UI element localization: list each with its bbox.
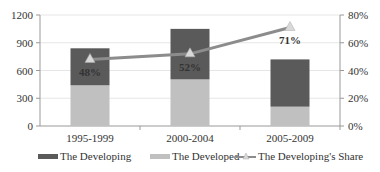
- y2-tick-label: 0%: [348, 120, 363, 132]
- legend-label: The Developing's Share: [258, 150, 363, 162]
- y-tick-label: 0: [28, 120, 34, 132]
- bar-segment: [171, 79, 210, 126]
- legend-label: The Developing: [60, 150, 132, 162]
- y-tick-label: 300: [17, 92, 34, 104]
- y2-tick-label: 40%: [348, 65, 368, 77]
- chart-svg: 030060090012000%20%40%60%80%1995-1999200…: [0, 0, 380, 172]
- stacked-bar-line-chart: 030060090012000%20%40%60%80%1995-1999200…: [0, 0, 380, 172]
- bar-segment: [271, 107, 310, 126]
- legend-label: The Developed: [172, 150, 240, 162]
- data-label: 52%: [179, 61, 201, 73]
- legend-swatch-icon: [38, 154, 58, 159]
- y-tick-label: 1200: [11, 9, 34, 21]
- data-label: 71%: [279, 34, 301, 46]
- x-tick-label: 2000-2004: [166, 132, 214, 144]
- data-label: 48%: [79, 66, 101, 78]
- triangle-marker-icon: [285, 21, 295, 30]
- y-tick-label: 900: [17, 37, 34, 49]
- legend-swatch-icon: [150, 154, 170, 159]
- x-tick-label: 1995-1999: [66, 132, 114, 144]
- bar-segment: [271, 59, 310, 106]
- y2-tick-label: 60%: [348, 37, 368, 49]
- y2-tick-label: 20%: [348, 92, 368, 104]
- x-tick-label: 2005-2009: [266, 132, 314, 144]
- bar-segment: [71, 85, 110, 126]
- y2-tick-label: 80%: [348, 9, 368, 21]
- y-tick-label: 600: [17, 65, 34, 77]
